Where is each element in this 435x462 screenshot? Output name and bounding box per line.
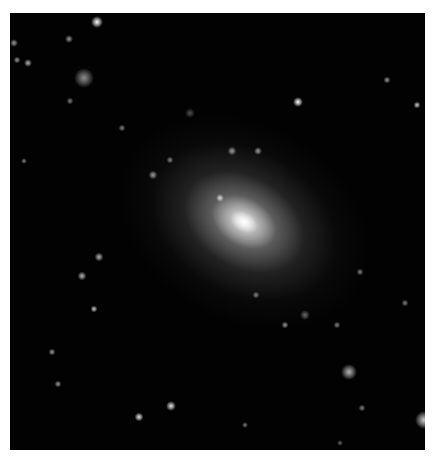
star-object — [21, 158, 27, 164]
star-object — [228, 147, 237, 156]
galaxy-image — [10, 13, 425, 450]
star-object — [384, 77, 391, 84]
star-object — [253, 292, 260, 299]
star-object — [357, 269, 364, 276]
star-object — [49, 349, 56, 356]
star-object — [149, 171, 158, 180]
star-object — [95, 253, 104, 262]
star-object — [67, 98, 74, 105]
star-object — [341, 364, 357, 380]
star-object — [414, 102, 421, 109]
star-object — [14, 57, 21, 64]
star-object — [74, 68, 94, 88]
star-object — [359, 405, 366, 412]
star-object — [300, 310, 310, 320]
star-object — [337, 440, 343, 446]
star-object — [185, 108, 195, 118]
star-object — [293, 97, 303, 107]
star-object — [167, 157, 174, 164]
star-object — [135, 413, 144, 422]
star-object — [334, 322, 341, 329]
star-object — [119, 125, 126, 132]
star-object — [415, 411, 425, 429]
star-object — [24, 59, 32, 67]
star-object — [242, 422, 248, 428]
star-object — [166, 401, 176, 411]
star-object — [65, 35, 73, 43]
star-object — [78, 272, 87, 281]
star-object — [55, 381, 62, 388]
star-object — [254, 147, 262, 155]
image-caption-faint — [0, 452, 435, 462]
star-object — [282, 322, 289, 329]
star-object — [91, 16, 103, 28]
star-object — [402, 300, 409, 307]
star-object — [216, 194, 224, 202]
star-object — [10, 39, 18, 47]
star-object — [91, 306, 98, 313]
